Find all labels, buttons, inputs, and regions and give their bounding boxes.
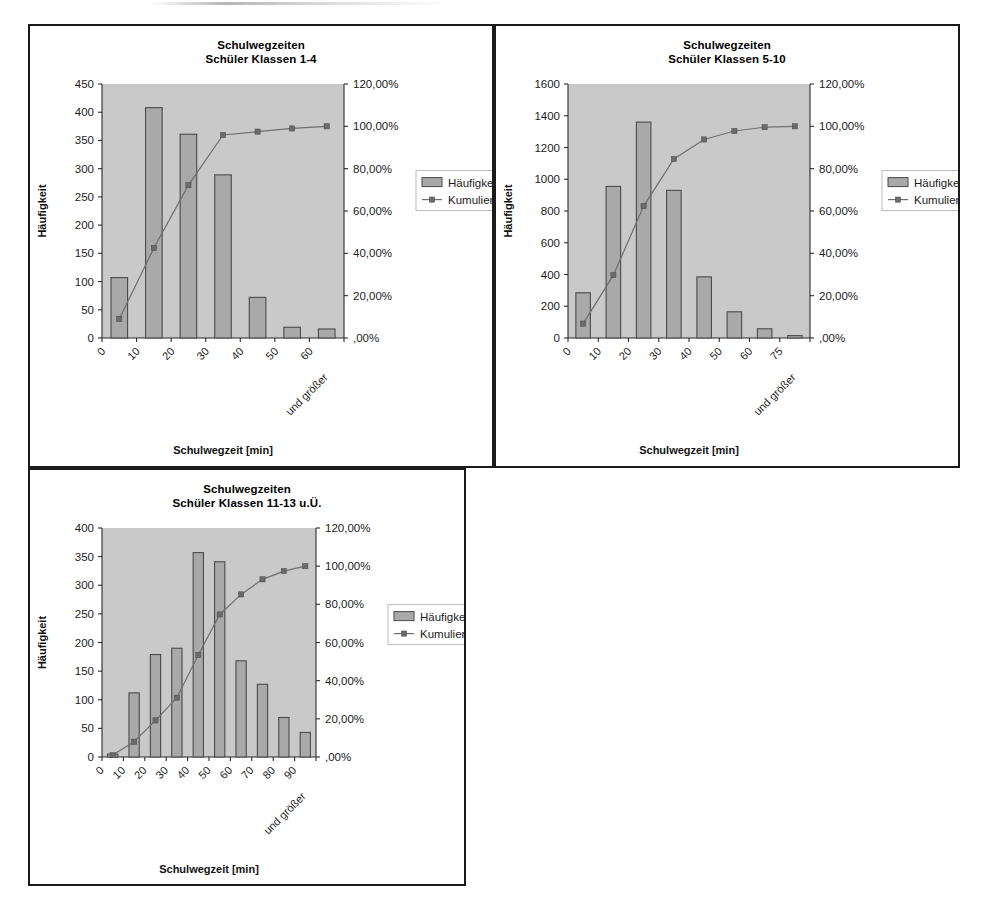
y2-axis-tick-label: 120,00% — [819, 78, 864, 90]
cumulative-point-50 — [290, 126, 295, 131]
x-axis-label-group: und größer — [283, 371, 330, 418]
cumulative-point-0 — [117, 316, 122, 321]
y2-axis-tick-label: 60,00% — [819, 205, 858, 217]
y-axis-tick-label: 100 — [75, 276, 94, 288]
x-axis-tick-label: 60 — [737, 345, 754, 362]
y2-axis-tick-label: 40,00% — [325, 675, 364, 687]
x-axis-label-group: 40 — [174, 764, 191, 781]
legend-label-haeufigkeit: Häufigkeit — [448, 177, 492, 189]
bar-50 — [727, 312, 742, 338]
chart-subtitle-line2: Schüler Klassen 11-13 u.Ü. — [30, 496, 464, 510]
y-axis-tick-label: 350 — [75, 551, 94, 563]
x-axis-tick-label: 80 — [260, 764, 277, 781]
y-axis-tick-label: 250 — [75, 191, 94, 203]
chart-subtitle-line2: Schüler Klassen 5-10 — [496, 52, 958, 66]
chart-svg-chart-2: 02004006008001000120014001600,00%20,00%4… — [496, 66, 958, 466]
x-axis-label-group: 60 — [737, 345, 754, 362]
bar-50 — [215, 562, 225, 757]
y2-axis-tick-label: ,00% — [325, 751, 351, 763]
y2-axis-tick-label: 80,00% — [325, 598, 364, 610]
cumulative-point-40 — [255, 129, 260, 134]
legend-marker-kumuliert — [401, 631, 406, 636]
y-axis-tick-label: 250 — [75, 608, 94, 620]
y-axis-tick-label: 1400 — [534, 110, 560, 122]
bar-40 — [249, 297, 266, 338]
chart-title-line1: Schulwegzeiten — [203, 483, 291, 495]
x-axis-label-group: 50 — [196, 764, 213, 781]
chart-panel-klassen-1-4: Schulwegzeiten Schüler Klassen 1-4 05010… — [28, 24, 494, 468]
legend-label-kumuliert: Kumuliert % — [914, 194, 958, 206]
x-axis-tick-label: 0 — [560, 345, 573, 358]
chart-subtitle-line2: Schüler Klassen 1-4 — [30, 52, 492, 66]
cumulative-point-40 — [702, 137, 707, 142]
cumulative-point-60 — [762, 125, 767, 130]
y-axis-tick-label: 50 — [81, 304, 94, 316]
bar-60 — [318, 329, 335, 338]
x-axis-title: Schulwegzeit [min] — [173, 444, 273, 456]
y2-axis-tick-label: 100,00% — [353, 120, 398, 132]
y-axis-tick-label: 0 — [554, 332, 560, 344]
y2-axis-tick-label: ,00% — [353, 332, 379, 344]
x-axis-label-group: 0 — [95, 345, 108, 358]
y2-axis-tick-label: 120,00% — [353, 78, 398, 90]
chart-panel-klassen-5-10: Schulwegzeiten Schüler Klassen 5-10 0200… — [494, 24, 960, 468]
plot-area-background — [568, 84, 810, 338]
cumulative-point-20 — [153, 718, 158, 723]
y-axis-tick-label: 400 — [75, 106, 94, 118]
cumulative-point-0 — [581, 321, 586, 326]
x-axis-title: Schulwegzeit [min] — [639, 444, 739, 456]
y-axis-title-group: Häufigkeit — [502, 184, 514, 238]
chart-title-line1: Schulwegzeiten — [683, 39, 771, 51]
x-axis-label-group: 40 — [677, 345, 694, 362]
y-axis-tick-label: 1600 — [534, 78, 560, 90]
x-axis-tick-label: 75 — [768, 345, 785, 362]
x-axis-tick-label: 40 — [229, 345, 246, 362]
legend-label-haeufigkeit: Häufigkeit — [914, 177, 958, 189]
bar-10 — [129, 693, 139, 757]
y-axis-tick-label: 200 — [75, 219, 94, 231]
scan-artifact — [150, 2, 450, 5]
x-axis-tick-label: 20 — [616, 345, 633, 362]
x-axis-tick-label: 90 — [281, 764, 298, 781]
y-axis-tick-label: 300 — [75, 579, 94, 591]
x-axis-tick-label: 70 — [239, 764, 256, 781]
y-axis-tick-label: 450 — [75, 78, 94, 90]
x-axis-tick-label: und größer — [283, 371, 330, 418]
y-axis-title: Häufigkeit — [502, 184, 514, 238]
y-axis-tick-label: 400 — [541, 269, 560, 281]
y-axis-tick-label: 150 — [75, 247, 94, 259]
y2-axis-tick-label: 80,00% — [353, 163, 392, 175]
y-axis-tick-label: 200 — [541, 300, 560, 312]
x-axis-label-group: 50 — [263, 345, 280, 362]
y2-axis-tick-label: 60,00% — [353, 205, 392, 217]
bar-30 — [215, 175, 232, 338]
x-axis-label-group: 75 — [768, 345, 785, 362]
y2-axis-tick-label: 40,00% — [819, 247, 858, 259]
x-axis-label-group: 30 — [194, 345, 211, 362]
x-axis-label-group: und größer — [261, 790, 308, 837]
x-axis-tick-label: 10 — [110, 764, 127, 781]
chart-legend: HäufigkeitKumuliert % — [388, 605, 464, 645]
chart-canvas-2: 02004006008001000120014001600,00%20,00%4… — [496, 66, 958, 466]
y-axis-tick-label: 150 — [75, 665, 94, 677]
x-axis-label-group: 20 — [160, 345, 177, 362]
y-axis-tick-label: 0 — [88, 751, 94, 763]
cumulative-point-10 — [151, 245, 156, 250]
y-axis-title: Häufigkeit — [36, 616, 48, 670]
y2-axis-tick-label: 60,00% — [325, 637, 364, 649]
y2-axis-tick-label: 40,00% — [353, 247, 392, 259]
scanned-document-page: Schulwegzeiten Schüler Klassen 1-4 05010… — [0, 0, 992, 905]
x-axis-tick-label: 10 — [586, 345, 603, 362]
x-axis-tick-label: 50 — [263, 345, 280, 362]
chart-legend: HäufigkeitKumuliert % — [416, 171, 492, 211]
x-axis-label-group: 0 — [560, 345, 573, 358]
chart-title-1: Schulwegzeiten Schüler Klassen 1-4 — [30, 26, 492, 66]
y-axis-tick-label: 0 — [88, 332, 94, 344]
y-axis-title-group: Häufigkeit — [36, 184, 48, 238]
cumulative-point-30 — [671, 156, 676, 161]
y-axis-tick-label: 800 — [541, 205, 560, 217]
y-axis-title-group: Häufigkeit — [36, 616, 48, 670]
y2-axis-tick-label: 80,00% — [819, 163, 858, 175]
y-axis-tick-label: 600 — [541, 237, 560, 249]
y-axis-title: Häufigkeit — [36, 184, 48, 238]
